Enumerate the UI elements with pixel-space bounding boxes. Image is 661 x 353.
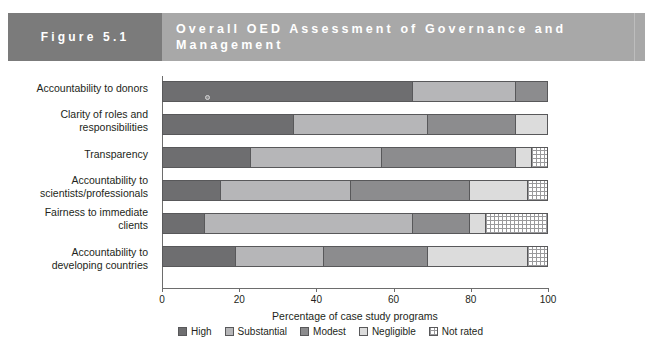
x-tick-mark xyxy=(394,288,395,292)
bar-row[interactable] xyxy=(162,114,548,135)
x-tick-label: 40 xyxy=(311,294,322,305)
figure-number-tab: Figure 5.1 xyxy=(8,13,162,61)
bar-segment-not-rated[interactable] xyxy=(528,181,547,200)
category-label: Accountability to donors xyxy=(37,82,148,95)
legend-item[interactable]: Modest xyxy=(300,326,346,337)
bar-segment-modest[interactable] xyxy=(351,181,470,200)
bar-segment-substantial[interactable] xyxy=(294,115,428,134)
legend-label: Negligible xyxy=(372,326,416,337)
figure-header-banner: Figure 5.1 Overall OED Assessment of Gov… xyxy=(8,13,645,61)
speck-artifact xyxy=(205,95,210,100)
chart-plot-area: Accountability to donorsClarity of roles… xyxy=(0,70,661,320)
x-tick-label: 60 xyxy=(388,294,399,305)
x-tick-mark xyxy=(316,288,317,292)
bar-segment-high[interactable] xyxy=(163,82,413,101)
legend-item[interactable]: Substantial xyxy=(225,326,287,337)
bar-segment-modest[interactable] xyxy=(413,214,471,233)
bar-segment-negligible[interactable] xyxy=(470,214,485,233)
figure-title-area: Overall OED Assessment of Governance and… xyxy=(162,13,645,61)
bar-row[interactable] xyxy=(162,180,548,201)
bar-row[interactable] xyxy=(162,246,548,267)
x-tick-mark xyxy=(239,288,240,292)
legend-item[interactable]: High xyxy=(178,326,212,337)
bar-segment-negligible[interactable] xyxy=(516,115,547,134)
legend-swatch-icon xyxy=(178,327,187,336)
bar-segment-substantial[interactable] xyxy=(251,148,382,167)
bar-segment-substantial[interactable] xyxy=(205,214,412,233)
category-label: Clarity of roles and responsibilities xyxy=(60,108,148,133)
bar-segment-substantial[interactable] xyxy=(221,181,352,200)
bar-segment-not-rated[interactable] xyxy=(486,214,547,233)
bar-segment-not-rated[interactable] xyxy=(528,247,547,266)
legend-swatch-icon xyxy=(300,327,309,336)
x-tick-label: 80 xyxy=(465,294,476,305)
bar-segment-high[interactable] xyxy=(163,247,236,266)
legend-label: Not rated xyxy=(442,326,483,337)
x-tick-mark xyxy=(548,288,549,292)
legend-swatch-icon xyxy=(429,327,438,336)
bar-segment-high[interactable] xyxy=(163,181,221,200)
legend-item[interactable]: Negligible xyxy=(359,326,416,337)
category-label: Transparency xyxy=(84,148,148,161)
chart-legend: HighSubstantialModestNegligibleNot rated xyxy=(0,326,661,337)
x-axis-title: Percentage of case study programs xyxy=(162,310,548,322)
bar-segment-negligible[interactable] xyxy=(428,247,528,266)
bar-segment-modest[interactable] xyxy=(382,148,516,167)
legend-label: Substantial xyxy=(238,326,287,337)
x-tick-label: 100 xyxy=(540,294,557,305)
bar-segment-negligible[interactable] xyxy=(470,181,528,200)
category-label: Fairness to immediate clients xyxy=(45,206,148,231)
category-label: Accountability to scientists/professiona… xyxy=(40,174,148,199)
legend-item[interactable]: Not rated xyxy=(429,326,483,337)
legend-swatch-icon xyxy=(359,327,368,336)
bar-segment-high[interactable] xyxy=(163,115,294,134)
bar-segment-negligible[interactable] xyxy=(516,148,531,167)
legend-label: High xyxy=(191,326,212,337)
bar-segment-modest[interactable] xyxy=(516,82,547,101)
bar-segment-substantial[interactable] xyxy=(413,82,517,101)
bar-segment-modest[interactable] xyxy=(324,247,428,266)
legend-label: Modest xyxy=(313,326,346,337)
x-axis-line xyxy=(162,288,548,289)
bar-segment-not-rated[interactable] xyxy=(532,148,547,167)
legend-swatch-icon xyxy=(225,327,234,336)
bar-segment-modest[interactable] xyxy=(428,115,516,134)
bar-segment-high[interactable] xyxy=(163,214,205,233)
x-tick-label: 20 xyxy=(234,294,245,305)
bar-row[interactable] xyxy=(162,147,548,168)
bar-segment-substantial[interactable] xyxy=(236,247,324,266)
category-label: Accountability to developing countries xyxy=(52,246,148,271)
x-tick-label: 0 xyxy=(159,294,165,305)
x-tick-mark xyxy=(471,288,472,292)
category-axis-labels: Accountability to donorsClarity of roles… xyxy=(0,70,155,284)
bar-segment-high[interactable] xyxy=(163,148,251,167)
x-tick-mark xyxy=(162,288,163,292)
page-title: Overall OED Assessment of Governance and… xyxy=(176,21,645,53)
bar-row[interactable] xyxy=(162,81,548,102)
bar-row[interactable] xyxy=(162,213,548,234)
figure-number-label: Figure 5.1 xyxy=(41,30,130,44)
